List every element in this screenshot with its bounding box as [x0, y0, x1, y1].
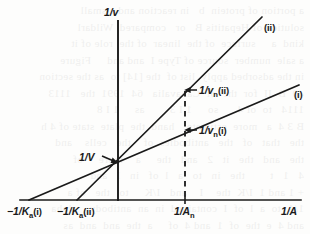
y-axis-label-denominator: v [113, 6, 119, 18]
series-label-ii: (ii) [264, 22, 275, 33]
y-axis-label: 1/v [104, 6, 118, 18]
figure-container: a portion of protein b in reaction and a… [0, 0, 310, 234]
vn-i-paren: (i) [218, 125, 227, 136]
annotation-label-one-over-V: 1/V [79, 151, 94, 163]
x-tick-label-an-denominator: A [183, 205, 190, 217]
x-tick-label-ka-i-paren: (i) [33, 206, 42, 217]
annotation-label-vn-i: 1/vn(i) [199, 124, 227, 139]
x-tick-label-inv-an: 1/An [174, 205, 195, 220]
annotation-label-vn-ii: 1/vn(ii) [199, 84, 229, 99]
x-tick-label-ka-i-denominator: K [22, 205, 29, 217]
x-tick-label-ka-ii-denominator: K [72, 205, 79, 217]
x-tick-label-ka-ii-paren: (ii) [83, 206, 94, 217]
series-line-ii [77, 17, 262, 200]
one-over-V-denominator: V [88, 151, 95, 163]
series-line-i [29, 85, 299, 200]
x-axis-label-denominator: A [290, 205, 297, 217]
x-tick-label-an-subscript: n [190, 211, 195, 220]
vn-ii-paren: (ii) [218, 85, 229, 96]
x-tick-label-neg-inv-ka-ii: −1/Ka(ii) [57, 205, 94, 220]
x-tick-label-neg-inv-ka-i: −1/Ka(i) [7, 205, 42, 220]
series-label-i: (i) [294, 89, 303, 100]
double-reciprocal-plot [0, 0, 310, 234]
x-axis-label: 1/A [281, 205, 297, 217]
